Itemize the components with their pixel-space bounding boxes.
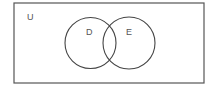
universe-label: U — [27, 12, 34, 22]
universe-rectangle — [14, 3, 204, 83]
set-d-label: D — [86, 27, 93, 37]
set-e-circle — [103, 17, 155, 69]
set-e-label: E — [126, 27, 132, 37]
venn-diagram: U D E — [0, 0, 214, 87]
set-d-circle — [65, 18, 116, 69]
